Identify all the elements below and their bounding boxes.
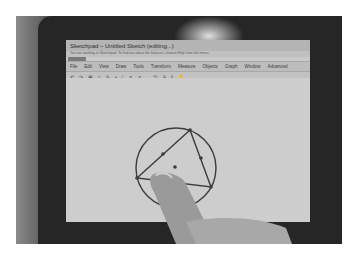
menu-tools[interactable]: Tools — [133, 64, 144, 69]
menu-graph[interactable]: Graph — [225, 64, 238, 69]
menu-file[interactable]: File — [70, 64, 77, 69]
point[interactable] — [199, 156, 203, 160]
point[interactable] — [209, 185, 213, 189]
menu-advanced[interactable]: Advanced — [267, 64, 287, 69]
tablet-screen: Sketchpad – Untitled Sketch (editing...)… — [66, 40, 310, 222]
info-bar: You are working in Sketchpad. To find ou… — [66, 51, 310, 57]
title-bar: Sketchpad – Untitled Sketch (editing...) — [66, 40, 310, 51]
menu-measure[interactable]: Measure — [178, 64, 196, 69]
menu-edit[interactable]: Edit — [84, 64, 92, 69]
window-title: Sketchpad – Untitled Sketch (editing...) — [70, 43, 174, 49]
menu-transform[interactable]: Transform — [151, 64, 171, 69]
point[interactable] — [188, 128, 192, 132]
geometry-drawing — [66, 78, 310, 222]
point[interactable] — [161, 152, 165, 156]
point[interactable] — [135, 176, 139, 180]
sketch-canvas[interactable] — [66, 78, 310, 222]
photo: Sketchpad – Untitled Sketch (editing...)… — [16, 16, 342, 244]
menu-draw[interactable]: Draw — [116, 64, 127, 69]
menu-window[interactable]: Window — [244, 64, 260, 69]
info-text: You are working in Sketchpad. To find ou… — [70, 51, 209, 55]
menu-bar: File Edit View Draw Tools Transform Meas… — [66, 61, 310, 72]
menu-objects[interactable]: Objects — [203, 64, 218, 69]
point[interactable] — [173, 165, 177, 169]
menu-view[interactable]: View — [99, 64, 109, 69]
